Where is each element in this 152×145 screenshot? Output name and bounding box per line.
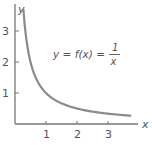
- reciprocal-function-chart: 123123 y x y = f(x) = 1 x: [0, 0, 152, 145]
- x-axis-label: x: [141, 118, 149, 131]
- equation-annotation: y = f(x) = 1 x: [52, 42, 120, 67]
- y-axis-label: y: [17, 3, 25, 16]
- axes: [15, 4, 138, 124]
- x-tick-label: 1: [43, 128, 50, 141]
- y-tick-label: 1: [2, 87, 9, 100]
- y-tick-label: 3: [2, 25, 9, 38]
- equation-lhs: y = f(x) =: [52, 48, 105, 60]
- equation-numerator: 1: [112, 42, 118, 53]
- y-tick-label: 2: [2, 56, 9, 69]
- equation-denominator: x: [110, 56, 117, 67]
- x-tick-label: 2: [74, 128, 81, 141]
- x-tick-label: 3: [105, 128, 112, 141]
